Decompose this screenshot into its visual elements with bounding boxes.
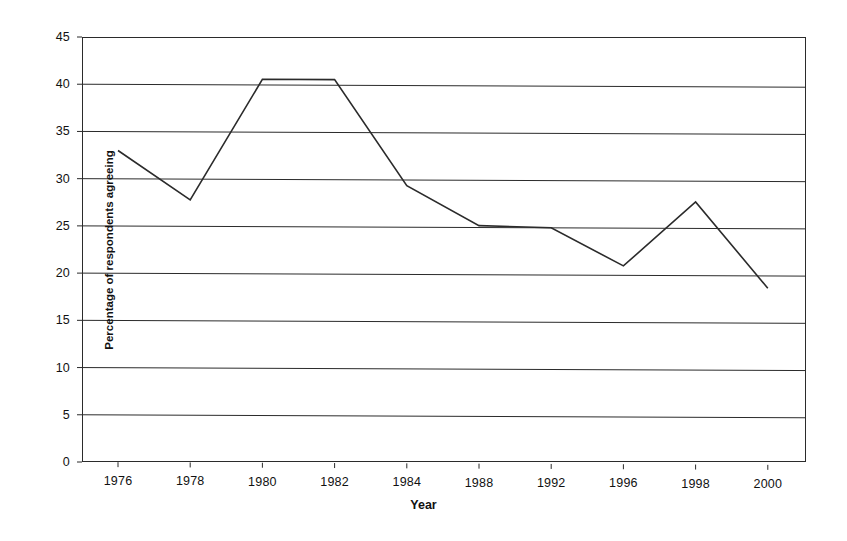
x-tick-label: 1982 <box>305 475 365 489</box>
x-tick-label: 1978 <box>160 474 220 488</box>
x-axis-ticks <box>118 462 768 470</box>
plot-area <box>82 37 806 462</box>
y-axis-title-wrap: Percentage of respondents agreeing <box>56 37 74 462</box>
x-tick-label: 1976 <box>88 474 148 488</box>
x-axis-title: Year <box>0 498 847 512</box>
x-tick-label: 1988 <box>449 476 509 490</box>
x-tick-label: 1980 <box>232 475 292 489</box>
x-tick-label: 1998 <box>666 477 726 491</box>
x-tick-label: 2000 <box>738 477 798 491</box>
line-chart: 051015202530354045 197619781980198219841… <box>0 0 847 541</box>
x-tick-label: 1996 <box>593 476 653 490</box>
x-tick-label: 1984 <box>377 475 437 489</box>
x-tick-label: 1992 <box>521 476 581 490</box>
y-axis-title: Percentage of respondents agreeing <box>103 135 115 365</box>
